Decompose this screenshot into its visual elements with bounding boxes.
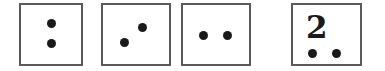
dot-marker [332,49,341,58]
card-vertical-pair [19,3,83,66]
numeral-glyph: 2 [306,12,328,43]
dot-marker [199,31,208,40]
dot-marker [120,38,129,47]
dot-marker [47,39,56,48]
dot-pattern-figure: 2 [0,0,385,71]
dot-marker [308,49,317,58]
dot-marker [138,23,147,32]
card-diagonal-pair [101,3,171,66]
card-horizontal-pair [181,3,251,66]
dot-marker [223,31,232,40]
dot-marker [47,19,56,28]
